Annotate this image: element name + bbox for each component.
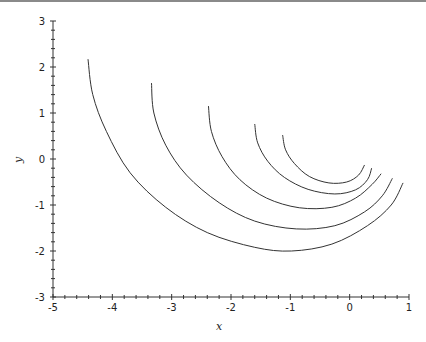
y-tick-label: -3 bbox=[35, 292, 45, 303]
x-tick-label: -3 bbox=[167, 302, 177, 313]
x-axis-title: x bbox=[216, 320, 223, 333]
curve-5 bbox=[283, 135, 365, 183]
y-tick-label: 0 bbox=[39, 154, 45, 165]
y-tick-label: -2 bbox=[35, 246, 45, 257]
y-tick-label: 1 bbox=[39, 108, 45, 119]
y-tick-label: 2 bbox=[39, 62, 45, 73]
y-axis-title: y bbox=[12, 156, 25, 164]
curve-1 bbox=[88, 59, 403, 251]
y-tick-label: 3 bbox=[39, 16, 45, 27]
x-tick-label: 1 bbox=[406, 302, 412, 313]
x-tick-label: -1 bbox=[285, 302, 295, 313]
axes: -5-4-3-2-101-3-2-10123 bbox=[35, 16, 412, 313]
curve-3 bbox=[208, 106, 381, 209]
x-tick-label: -5 bbox=[48, 302, 58, 313]
curves bbox=[88, 59, 403, 251]
x-tick-label: 0 bbox=[346, 302, 352, 313]
y-tick-label: -1 bbox=[35, 200, 45, 211]
line-chart: -5-4-3-2-101-3-2-10123 x y bbox=[0, 0, 426, 342]
x-tick-label: -2 bbox=[226, 302, 236, 313]
x-tick-label: -4 bbox=[107, 302, 117, 313]
curve-4 bbox=[255, 124, 372, 194]
curve-2 bbox=[151, 83, 392, 229]
